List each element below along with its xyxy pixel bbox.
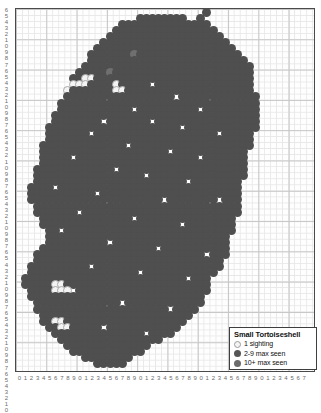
legend-entry-label: 2-9 max seen xyxy=(244,350,285,358)
legend-entry-label: 1 sighting xyxy=(244,340,273,348)
occurrence-dot-layer xyxy=(16,9,316,373)
legend-title: Small Tortoiseshell xyxy=(234,330,313,339)
legend-swatch-icon xyxy=(234,360,241,367)
occurrence-dot xyxy=(202,8,211,17)
legend-swatch-icon xyxy=(234,341,241,348)
legend-entry: 2-9 max seen xyxy=(234,349,313,358)
occurrence-dot xyxy=(166,329,175,338)
legend-entries: 1 sighting2-9 max seen10+ max seen xyxy=(234,340,313,368)
occurrence-dot xyxy=(154,335,163,344)
occurrence-dot xyxy=(136,347,145,356)
x-axis: 0123456789012345678901234567890123456789… xyxy=(16,374,321,388)
x-axis-tick: 7 xyxy=(301,375,307,381)
y-axis: 6543210987654321098765432109876543210987… xyxy=(0,8,13,372)
legend-swatch-icon xyxy=(234,350,241,357)
y-axis-tick: 0 xyxy=(0,407,13,413)
map-legend: Small Tortoiseshell 1 sighting2-9 max se… xyxy=(229,327,317,370)
legend-entry: 1 sighting xyxy=(234,340,313,349)
occurrence-dot xyxy=(118,359,127,368)
legend-entry-label: 10+ max seen xyxy=(244,359,287,367)
map-frame xyxy=(15,8,315,372)
legend-entry: 10+ max seen xyxy=(234,359,313,368)
